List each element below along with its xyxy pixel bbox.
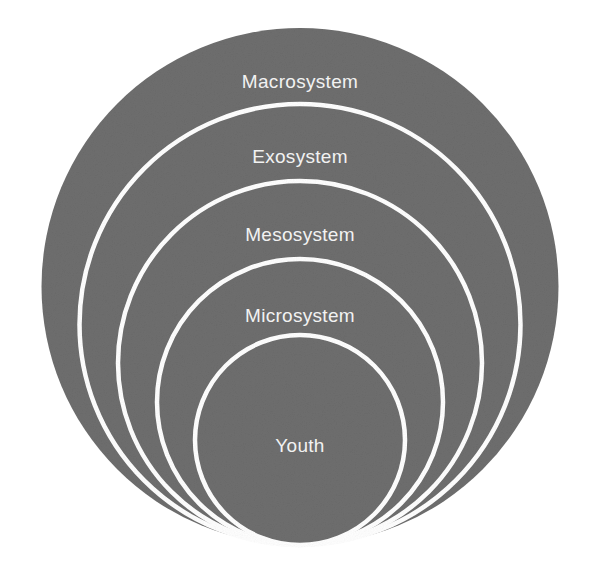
layer-label-mesosystem: Mesosystem [245,224,355,245]
layer-label-microsystem: Microsystem [245,305,355,326]
layer-label-macrosystem: Macrosystem [242,71,358,92]
nested-circles-diagram: Macrosystem Exosystem Mesosystem Microsy… [0,0,600,574]
layer-label-exosystem: Exosystem [252,146,348,167]
circle-layers-group [42,28,559,545]
layer-label-youth: Youth [275,435,324,456]
ecological-systems-diagram: Macrosystem Exosystem Mesosystem Microsy… [0,0,600,574]
